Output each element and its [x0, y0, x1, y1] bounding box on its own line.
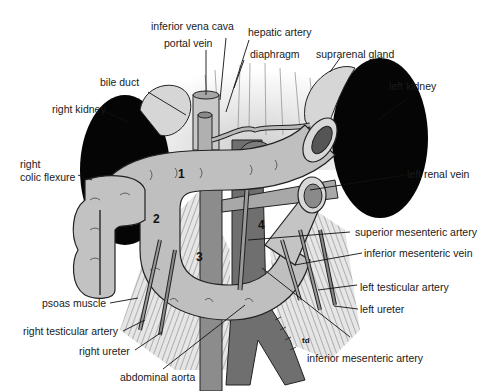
artist-signature: td	[302, 336, 310, 345]
label-bile-duct: bile duct	[100, 76, 139, 88]
label-inferior-vena-cava: inferior vena cava	[151, 20, 234, 32]
label-right-ureter: right ureter	[79, 345, 130, 357]
label-left-kidney: left kidney	[389, 80, 436, 92]
label-inferior-mesenteric-artery: inferior mesenteric artery	[307, 352, 423, 364]
label-hepatic-artery: hepatic artery	[248, 26, 312, 38]
label-portal-vein: portal vein	[164, 37, 212, 49]
label-psoas-muscle: psoas muscle	[42, 297, 106, 309]
label-superior-mesenteric-artery: superior mesenteric artery	[355, 226, 477, 238]
label-right-colic-flexure-line1: right	[20, 158, 40, 170]
label-left-ureter: left ureter	[360, 303, 404, 315]
portal-vein	[193, 91, 219, 155]
duodenum-part-1: 1	[178, 167, 185, 181]
label-right-testicular-artery: right testicular artery	[23, 325, 118, 337]
duodenum-part-3: 3	[196, 250, 203, 264]
label-suprarenal-gland: suprarenal gland	[316, 48, 394, 60]
duodenum-part-4: 4	[258, 218, 265, 232]
label-left-renal-vein: left renal vein	[407, 168, 469, 180]
duodenum-part-2: 2	[153, 212, 160, 226]
label-abdominal-aorta: abdominal aorta	[120, 371, 195, 383]
label-left-testicular-artery: left testicular artery	[360, 281, 449, 293]
label-inferior-mesenteric-vein: inferior mesenteric vein	[364, 247, 473, 259]
label-diaphragm: diaphragm	[250, 48, 300, 60]
label-right-kidney: right kidney	[52, 103, 106, 115]
label-right-colic-flexure-line2: colic flexure	[20, 171, 75, 183]
